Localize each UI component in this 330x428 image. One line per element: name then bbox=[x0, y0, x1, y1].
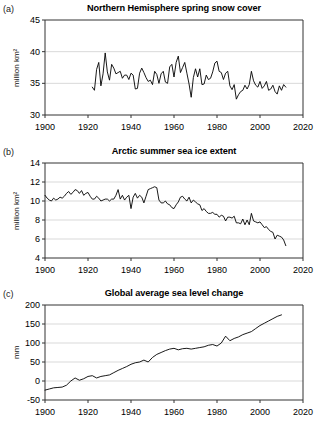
svg-text:1900: 1900 bbox=[35, 122, 55, 132]
svg-text:1940: 1940 bbox=[121, 265, 141, 275]
panel-sea-ice: (b) Arctic summer sea ice extent million… bbox=[0, 143, 330, 286]
svg-text:2000: 2000 bbox=[250, 407, 270, 417]
svg-text:8: 8 bbox=[35, 215, 40, 225]
svg-text:1980: 1980 bbox=[207, 122, 227, 132]
svg-text:1980: 1980 bbox=[207, 407, 227, 417]
svg-text:10: 10 bbox=[30, 196, 40, 206]
svg-text:1960: 1960 bbox=[164, 265, 184, 275]
svg-text:30: 30 bbox=[30, 110, 40, 120]
svg-text:50: 50 bbox=[30, 357, 40, 367]
svg-text:1920: 1920 bbox=[78, 122, 98, 132]
svg-text:-50: -50 bbox=[27, 395, 40, 405]
svg-text:100: 100 bbox=[25, 338, 40, 348]
svg-text:2000: 2000 bbox=[250, 122, 270, 132]
panel-snow-cover: (a) Northern Hemisphere spring snow cove… bbox=[0, 0, 330, 143]
svg-text:4: 4 bbox=[35, 253, 40, 263]
svg-text:40: 40 bbox=[30, 47, 40, 57]
chart-sea-ice: 4681012141900192019401960198020002020 bbox=[0, 143, 330, 286]
svg-text:200: 200 bbox=[25, 300, 40, 310]
chart-sea-level: -500501001502001900192019401960198020002… bbox=[0, 285, 330, 428]
svg-text:35: 35 bbox=[30, 78, 40, 88]
svg-text:1900: 1900 bbox=[35, 407, 55, 417]
panel-sea-level: (c) Global average sea level change mm -… bbox=[0, 285, 330, 428]
svg-text:2020: 2020 bbox=[293, 122, 313, 132]
svg-text:1940: 1940 bbox=[121, 407, 141, 417]
svg-text:1960: 1960 bbox=[164, 407, 184, 417]
svg-text:6: 6 bbox=[35, 234, 40, 244]
svg-text:1960: 1960 bbox=[164, 122, 184, 132]
svg-text:14: 14 bbox=[30, 158, 40, 168]
svg-text:1920: 1920 bbox=[78, 265, 98, 275]
svg-text:12: 12 bbox=[30, 177, 40, 187]
svg-text:2000: 2000 bbox=[250, 265, 270, 275]
svg-text:1900: 1900 bbox=[35, 265, 55, 275]
svg-text:150: 150 bbox=[25, 319, 40, 329]
svg-text:0: 0 bbox=[35, 376, 40, 386]
svg-text:2020: 2020 bbox=[293, 407, 313, 417]
svg-text:45: 45 bbox=[30, 15, 40, 25]
svg-text:1920: 1920 bbox=[78, 407, 98, 417]
svg-text:2020: 2020 bbox=[293, 265, 313, 275]
svg-text:1940: 1940 bbox=[121, 122, 141, 132]
chart-snow-cover: 303540451900192019401960198020002020 bbox=[0, 0, 330, 143]
svg-text:1980: 1980 bbox=[207, 265, 227, 275]
